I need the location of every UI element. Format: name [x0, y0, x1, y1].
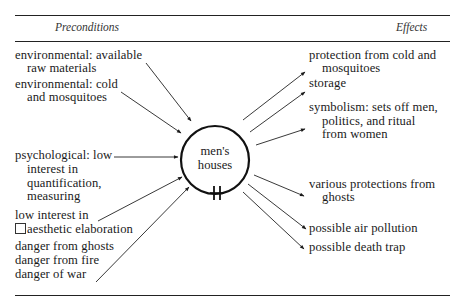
center-label-line2: houses: [185, 158, 245, 172]
effect-ghost-protection: various protections from ghosts: [309, 178, 435, 204]
arrow-storage: [250, 92, 305, 132]
precondition-aesthetic: low interest in aesthetic elaboration: [15, 208, 133, 236]
arrow-raw-materials: [146, 63, 191, 121]
text-line: aesthetic elaboration: [15, 222, 133, 236]
precondition-cold-mosquitoes: environmental: cold and mosquitoes: [15, 78, 118, 104]
precondition-ghosts: danger from ghosts: [15, 240, 114, 253]
text-line: low interest in: [15, 208, 133, 222]
text-line: symbolism: sets off men,: [309, 101, 438, 115]
effect-air-pollution: possible air pollution: [309, 222, 418, 235]
arrow-ghost-protection: [254, 175, 304, 196]
text-line: and mosquitoes: [15, 91, 118, 104]
arrow-air-pollution: [248, 184, 306, 229]
text-line: possible air pollution: [309, 222, 418, 235]
arrow-protection: [243, 72, 305, 120]
text-line: danger from fire: [15, 254, 99, 267]
text-line: measuring: [15, 190, 112, 204]
precondition-war: danger of war: [15, 268, 86, 281]
center-node-label: men's houses: [185, 144, 245, 172]
text-span: aesthetic elaboration: [27, 222, 133, 236]
text-line: possible death trap: [309, 241, 405, 254]
text-line: interest in: [15, 163, 112, 177]
precondition-fire: danger from fire: [15, 254, 99, 267]
arrow-cold-mosquitoes: [121, 92, 181, 133]
text-line: danger of war: [15, 268, 86, 281]
precondition-psychological: psychological: low interest in quantific…: [15, 149, 112, 204]
checkbox-glyph-icon: [15, 223, 26, 234]
effect-death-trap: possible death trap: [309, 241, 405, 254]
arrow-symbolism: [256, 129, 305, 145]
text-line: mosquitoes: [309, 62, 436, 75]
text-line: raw materials: [15, 62, 142, 75]
text-line: politics, and ritual: [309, 115, 438, 129]
text-line: ghosts: [309, 191, 435, 204]
effect-symbolism: symbolism: sets off men, politics, and r…: [309, 101, 438, 142]
text-line: psychological: low: [15, 149, 112, 163]
precondition-raw-materials: environmental: available raw materials: [15, 49, 142, 75]
text-line: danger from ghosts: [15, 240, 114, 253]
text-line: from women: [309, 128, 438, 142]
center-label-line1: men's: [185, 144, 245, 158]
text-line: quantification,: [15, 177, 112, 191]
effect-storage: storage: [309, 77, 346, 90]
text-line: storage: [309, 77, 346, 90]
effect-protection: protection from cold and mosquitoes: [309, 49, 436, 75]
